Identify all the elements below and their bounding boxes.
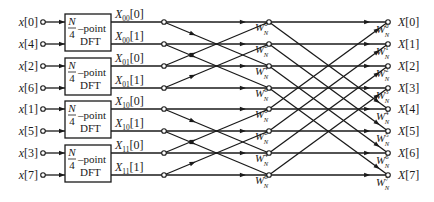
dft-output-label: X01[1] (114, 73, 144, 89)
dft-output-label: X00[0] (114, 7, 144, 23)
dft-size-label: –point (77, 153, 106, 165)
input-node (41, 86, 46, 91)
arrow-head-icon (59, 20, 65, 24)
input-label: x[3] (18, 146, 38, 160)
dft-label: DFT (80, 122, 101, 134)
arrow-head-icon (240, 42, 246, 46)
input-node (41, 64, 46, 69)
fft-flow-graph: x[0]x[4]x[2]x[6]x[1]x[5]x[3]x[7]N4–point… (0, 0, 434, 202)
arrow-head-icon (240, 151, 246, 155)
dft-size-label: –point (77, 66, 106, 78)
arrow-head-icon (240, 86, 246, 90)
input-label: x[2] (18, 59, 38, 73)
stage2-twiddle-label: W2N (376, 66, 390, 82)
arrow-head-icon (364, 173, 370, 177)
dft-output-label: X10[1] (114, 116, 144, 132)
output-label: X[5] (397, 124, 419, 138)
input-label: x[6] (18, 81, 38, 95)
dft-size-label: –point (77, 22, 106, 34)
fraction-denominator: 4 (69, 115, 75, 127)
input-node (41, 151, 46, 156)
arrow-head-icon (189, 31, 196, 37)
arrow-head-icon (364, 42, 370, 46)
dft-output-label: X10[0] (114, 94, 144, 110)
output-label: X[1] (397, 37, 419, 51)
stage1-input-node (162, 42, 167, 47)
input-node (41, 173, 46, 178)
stage2-twiddle-label: W1N (376, 44, 390, 60)
arrow-head-icon (59, 173, 65, 177)
arrow-head-icon (59, 86, 65, 90)
arrow-head-icon (364, 151, 370, 155)
stage1-twiddle-label: W4N (255, 64, 269, 80)
dft-output-label: X01[0] (114, 51, 144, 67)
input-label: x[5] (18, 124, 38, 138)
fraction-numerator: N (67, 59, 76, 71)
stage1-twiddle-label: W2N (255, 42, 269, 58)
dft-output-label: X11[1] (114, 160, 144, 176)
dft-label: DFT (80, 166, 101, 178)
stage1-twiddle-label: W0N (255, 107, 269, 123)
input-label: x[4] (18, 37, 38, 51)
stage2-twiddle-label: W7N (376, 175, 390, 191)
input-node (41, 107, 46, 112)
output-label: X[3] (397, 81, 419, 95)
arrow-head-icon (364, 129, 370, 133)
arrow-head-icon (59, 64, 65, 68)
dft-label: DFT (80, 79, 101, 91)
fraction-numerator: N (67, 15, 76, 27)
dft-label: DFT (80, 35, 101, 47)
dft-size-label: –point (77, 109, 106, 121)
stage1-input-node (162, 173, 167, 178)
stage2-twiddle-label: W0N (376, 22, 390, 38)
input-label: x[7] (18, 168, 38, 182)
dft-output-label: X00[1] (114, 29, 144, 45)
arrow-head-icon (364, 64, 370, 68)
fraction-denominator: 4 (69, 28, 75, 40)
stage1-input-node (162, 64, 167, 69)
output-label: X[4] (397, 102, 419, 116)
stage1-twiddle-label: W0N (255, 20, 269, 36)
output-label: X[0] (397, 15, 419, 29)
arrow-head-icon (189, 73, 196, 79)
stage1-twiddle-label: W4N (255, 151, 269, 167)
arrow-head-icon (364, 86, 370, 90)
fraction-numerator: N (67, 102, 76, 114)
stage1-twiddle-label: W6N (255, 173, 269, 189)
arrow-head-icon (189, 160, 196, 166)
output-label: X[2] (397, 59, 419, 73)
arrow-head-icon (240, 107, 246, 111)
stage1-input-node (162, 151, 167, 156)
output-label: X[7] (397, 168, 419, 182)
arrow-head-icon (59, 107, 65, 111)
fraction-denominator: 4 (69, 159, 75, 171)
stage1-input-node (162, 86, 167, 91)
arrow-head-icon (59, 129, 65, 133)
input-node (41, 42, 46, 47)
fraction-denominator: 4 (69, 72, 75, 84)
arrow-head-icon (240, 173, 246, 177)
stage1-input-node (162, 129, 167, 134)
fraction-numerator: N (67, 146, 76, 158)
arrow-head-icon (240, 64, 246, 68)
stage1-input-node (162, 107, 167, 112)
stage1-twiddle-label: W6N (255, 86, 269, 102)
input-node (41, 129, 46, 134)
stage1-input-node (162, 20, 167, 25)
dft-output-label: X11[0] (114, 138, 144, 154)
arrow-head-icon (59, 42, 65, 46)
input-label: x[1] (18, 102, 38, 116)
stage1-twiddle-label: W2N (255, 129, 269, 145)
arrow-head-icon (240, 129, 246, 133)
input-label: x[0] (18, 15, 38, 29)
arrow-head-icon (364, 107, 370, 111)
arrow-head-icon (364, 20, 370, 24)
output-label: X[6] (397, 146, 419, 160)
input-node (41, 20, 46, 25)
arrow-head-icon (240, 20, 246, 24)
arrow-head-icon (59, 151, 65, 155)
arrow-head-icon (189, 118, 196, 124)
